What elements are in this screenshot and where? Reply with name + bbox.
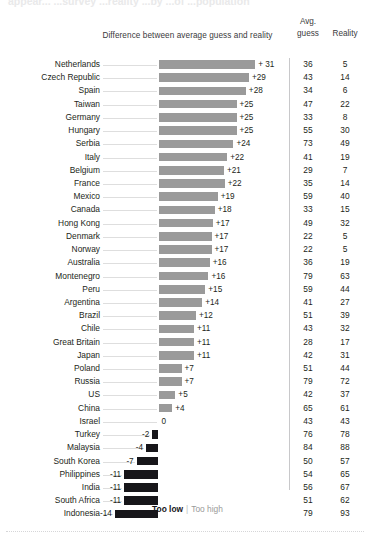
row-bar (159, 338, 195, 347)
row-bar (159, 258, 210, 267)
table-row: Malaysia-48488 (0, 441, 370, 454)
table-row: Poland+75144 (0, 362, 370, 375)
row-avg-guess: 54 (292, 469, 324, 480)
row-avg-guess: 59 (292, 284, 324, 295)
row-reality: 43 (326, 416, 364, 427)
row-leader-line (103, 395, 157, 396)
row-value-label: +21 (227, 165, 241, 176)
row-bar (159, 140, 234, 149)
row-reality: 78 (326, 429, 364, 440)
row-reality: 5 (326, 59, 364, 70)
row-country-label: India (0, 482, 100, 493)
row-bar (159, 311, 196, 320)
table-row: India-115667 (0, 481, 370, 494)
table-row: Czech Republic+294314 (0, 71, 370, 84)
row-avg-guess: 36 (292, 59, 324, 70)
row-leader-line (103, 237, 157, 238)
row-reality: 5 (326, 244, 364, 255)
row-value-label: + 31 (258, 59, 274, 70)
row-leader-line (103, 329, 157, 330)
table-row: Japan+114231 (0, 349, 370, 362)
row-country-label: Montenegro (0, 271, 100, 282)
row-bar (159, 404, 173, 413)
table-row: Italy+224119 (0, 151, 370, 164)
row-reality: 15 (326, 204, 364, 215)
table-row: Belgium+21297 (0, 164, 370, 177)
row-leader-line (103, 250, 157, 251)
row-reality: 17 (326, 337, 364, 348)
row-bar (124, 470, 158, 479)
row-bar (159, 245, 212, 254)
table-row: Norway+17225 (0, 243, 370, 256)
row-avg-guess: 51 (292, 495, 324, 506)
row-country-label: Japan (0, 350, 100, 361)
row-country-label: Israel (0, 416, 100, 427)
row-country-label: Germany (0, 112, 100, 123)
table-row: Chile+114332 (0, 322, 370, 335)
row-value-label: +25 (240, 99, 254, 110)
row-country-label: Australia (0, 257, 100, 268)
table-row: Great Britain+112817 (0, 336, 370, 349)
row-country-label: Italy (0, 152, 100, 163)
row-country-label: Netherlands (0, 59, 100, 70)
chart-rows: Netherlands+ 31365Czech Republic+294314S… (0, 58, 370, 521)
row-bar (159, 153, 228, 162)
row-value-label: +17 (216, 218, 230, 229)
legend-too-low: Too low (152, 504, 183, 514)
row-avg-guess: 50 (292, 456, 324, 467)
legend-separator: | (186, 504, 188, 514)
table-row: France+223514 (0, 177, 370, 190)
row-avg-guess: 51 (292, 363, 324, 374)
table-row: Brazil+125139 (0, 309, 370, 322)
row-country-label: Peru (0, 284, 100, 295)
row-value-label: +11 (197, 337, 210, 348)
row-value-label: +24 (236, 138, 250, 149)
row-avg-guess: 51 (292, 310, 324, 321)
row-avg-guess: 79 (292, 376, 324, 387)
table-row: Russia+77972 (0, 375, 370, 388)
row-avg-guess: 47 (292, 99, 324, 110)
row-value-label: +5 (178, 389, 187, 400)
row-leader-line (103, 65, 157, 66)
row-bar (159, 351, 195, 360)
row-leader-line (103, 369, 157, 370)
row-leader-line (103, 409, 157, 410)
table-row: Denmark+17225 (0, 230, 370, 243)
row-leader-line (103, 382, 157, 383)
column-header-avg-line1: Avg. (292, 17, 324, 26)
row-bar (159, 100, 237, 109)
row-avg-guess: 42 (292, 350, 324, 361)
row-reality: 7 (326, 165, 364, 176)
row-value-label: +15 (208, 284, 222, 295)
row-avg-guess: 76 (292, 429, 324, 440)
table-row: Argentina+144127 (0, 296, 370, 309)
row-value-label: -2 (142, 429, 149, 440)
row-country-label: Poland (0, 363, 100, 374)
row-country-label: Hungary (0, 125, 100, 136)
row-bar (159, 113, 237, 122)
row-reality: 65 (326, 469, 364, 480)
row-avg-guess: 43 (292, 416, 324, 427)
row-bar (159, 364, 182, 373)
row-bar (159, 166, 225, 175)
row-leader-line (103, 316, 157, 317)
table-row: Peru+155944 (0, 283, 370, 296)
table-row: Taiwan+254722 (0, 98, 370, 111)
table-row: Hungary+255530 (0, 124, 370, 137)
row-leader-line (103, 171, 157, 172)
table-row: Mexico+195940 (0, 190, 370, 203)
row-bar (159, 325, 195, 334)
row-leader-line (103, 158, 157, 159)
row-value-label: +7 (185, 363, 194, 374)
row-reality: 8 (326, 112, 364, 123)
row-country-label: South Korea (0, 456, 100, 467)
row-avg-guess: 41 (292, 297, 324, 308)
column-header-avg-line2: guess (292, 29, 324, 38)
row-avg-guess: 43 (292, 72, 324, 83)
row-country-label: Chile (0, 323, 100, 334)
row-avg-guess: 55 (292, 125, 324, 136)
table-row: Canada+183315 (0, 203, 370, 216)
row-bar (159, 206, 215, 215)
row-avg-guess: 56 (292, 482, 324, 493)
row-leader-line (103, 210, 157, 211)
